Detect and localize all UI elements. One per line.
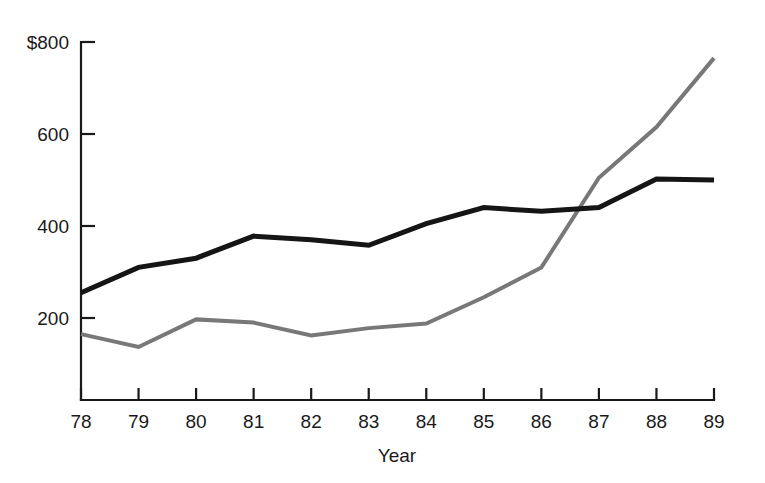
- x-tick-label-84: 84: [416, 411, 438, 432]
- x-tick-label-80: 80: [186, 411, 207, 432]
- x-tick-label-86: 86: [531, 411, 552, 432]
- series-black-series: [81, 179, 714, 293]
- y-tick-label-400: 400: [37, 216, 69, 237]
- x-tick-label-78: 78: [70, 411, 91, 432]
- y-axis-ticks: [81, 42, 95, 318]
- x-tick-label-82: 82: [301, 411, 322, 432]
- x-axis-ticks: [81, 388, 714, 400]
- x-tick-label-87: 87: [588, 411, 609, 432]
- x-tick-label-83: 83: [358, 411, 379, 432]
- x-tick-label-79: 79: [128, 411, 149, 432]
- x-tick-label-89: 89: [703, 411, 724, 432]
- x-tick-label-88: 88: [646, 411, 667, 432]
- y-tick-label-200: 200: [37, 308, 69, 329]
- x-axis-tick-labels: 787980818283848586878889: [70, 411, 724, 432]
- y-tick-label-800: $800: [27, 32, 69, 53]
- data-series-group: [81, 58, 714, 347]
- y-tick-label-600: 600: [37, 124, 69, 145]
- x-tick-label-81: 81: [243, 411, 264, 432]
- x-tick-label-85: 85: [473, 411, 494, 432]
- y-axis-tick-labels: 200400600$800: [27, 32, 69, 329]
- x-axis-title: Year: [378, 445, 417, 466]
- series-gray-series: [81, 58, 714, 347]
- line-chart: 200400600$800 787980818283848586878889 Y…: [0, 0, 765, 483]
- chart-container: 200400600$800 787980818283848586878889 Y…: [0, 0, 765, 483]
